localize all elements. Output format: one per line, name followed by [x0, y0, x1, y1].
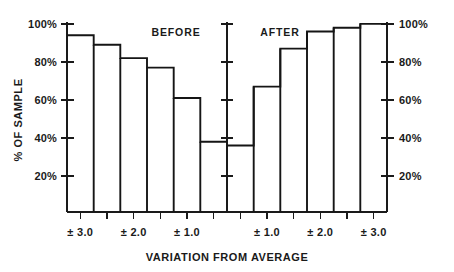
- y-tick-label-right-40: 40%: [399, 132, 422, 144]
- before-bars-group: [67, 35, 227, 212]
- x-axis-ticks: [80, 212, 373, 219]
- after-bars-group: [227, 24, 387, 212]
- y-tick-label-right-100: 100%: [399, 18, 428, 30]
- y-tick-label-left-20: 20%: [34, 170, 57, 182]
- panel-label-before: BEFORE: [151, 26, 200, 38]
- x-tick-label-before-1: ± 1.0: [174, 226, 200, 238]
- y-tick-label-left-100: 100%: [28, 18, 57, 30]
- panel-label-after: AFTER: [260, 26, 300, 38]
- x-tick-label-after-3: ± 3.0: [361, 226, 387, 238]
- y-tick-label-left-40: 40%: [34, 132, 57, 144]
- x-tick-label-before-3: ± 3.0: [67, 226, 93, 238]
- x-tick-label-after-2: ± 2.0: [307, 226, 333, 238]
- chart-container: 100% 80% 60% 40% 20% 100% 80% 60% 40% 20…: [0, 0, 454, 272]
- x-tick-label-before-2: ± 2.0: [121, 226, 147, 238]
- x-axis-labels: ± 3.0 ± 2.0 ± 1.0 ± 1.0 ± 2.0 ± 3.0: [67, 226, 386, 238]
- y-tick-label-right-80: 80%: [399, 56, 422, 68]
- y-tick-label-right-20: 20%: [399, 170, 422, 182]
- y-axis-right-ticks: 100% 80% 60% 40% 20%: [381, 18, 428, 182]
- y-axis-title: % OF SAMPLE: [12, 78, 24, 161]
- x-axis-title: VARIATION FROM AVERAGE: [146, 251, 309, 263]
- y-tick-label-right-60: 60%: [399, 94, 422, 106]
- y-tick-label-left-80: 80%: [34, 56, 57, 68]
- chart-svg: 100% 80% 60% 40% 20% 100% 80% 60% 40% 20…: [0, 0, 454, 272]
- y-tick-label-left-60: 60%: [34, 94, 57, 106]
- x-tick-label-after-1: ± 1.0: [254, 226, 280, 238]
- axes-group: [67, 22, 387, 212]
